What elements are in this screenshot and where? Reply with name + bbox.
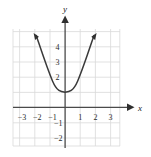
y-tick-label--1: −1 xyxy=(54,119,63,128)
y-tick-label-2: 2 xyxy=(56,73,60,82)
y-tick-label-4: 4 xyxy=(56,43,60,52)
y-axis-label: y xyxy=(62,4,67,14)
parabola-graph-figure: −3 −2 −1 1 2 3 4 3 2 −1 −2 y x xyxy=(0,0,151,157)
x-tick-label--3: −3 xyxy=(18,113,27,122)
x-tick-label-3: 3 xyxy=(109,113,113,122)
coordinate-plane-svg: −3 −2 −1 1 2 3 4 3 2 −1 −2 y x xyxy=(0,0,151,157)
x-tick-label-1: 1 xyxy=(78,113,82,122)
x-axis-label: x xyxy=(137,103,142,113)
y-tick-label-3: 3 xyxy=(56,58,60,67)
x-tick-label-2: 2 xyxy=(93,113,97,122)
x-tick-label--2: −2 xyxy=(33,113,42,122)
y-tick-label--2: −2 xyxy=(54,134,63,143)
